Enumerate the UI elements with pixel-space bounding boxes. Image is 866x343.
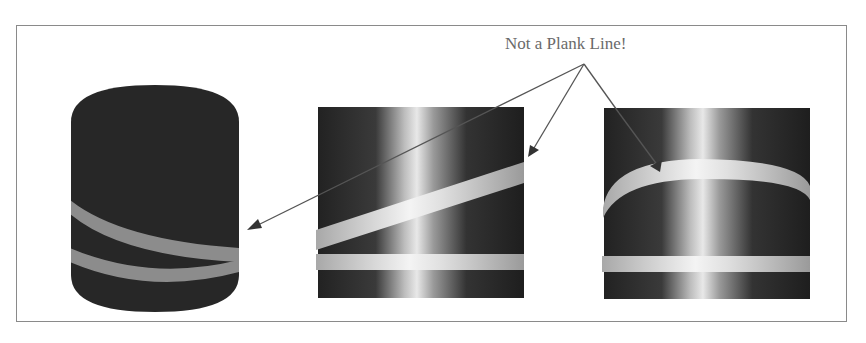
arrow-head-icon: [247, 219, 262, 230]
diagram-canvas: [0, 0, 866, 343]
arrow-to-curve: [584, 64, 619, 113]
cylinder-3d: [70, 85, 239, 312]
unrolled-panel-curved: [602, 108, 810, 299]
unrolled-panel-spiral: [316, 107, 524, 298]
arrow-head-icon: [528, 145, 539, 157]
